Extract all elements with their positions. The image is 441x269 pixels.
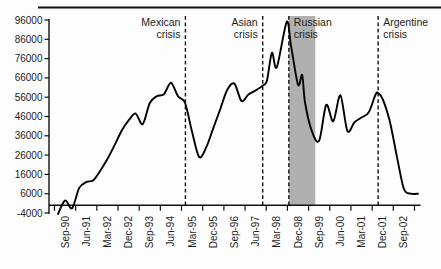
- figure: MexicancrisisAsiancrisisRussiancrisisArg…: [0, 0, 441, 269]
- crisis-label-russian-line2: crisis: [294, 28, 318, 40]
- x-tick-label: Mar-95: [187, 216, 198, 248]
- x-tick-label: Sep-02: [398, 216, 409, 249]
- y-tick-label: 96000: [15, 15, 43, 26]
- y-tick-label: 36000: [15, 130, 43, 141]
- crisis-label-mexican-line1: Mexican: [141, 16, 180, 28]
- x-tick-label: Jun-00: [335, 216, 346, 247]
- y-tick-label: 66000: [15, 72, 43, 83]
- x-tick-label: Sep-99: [314, 216, 325, 249]
- crisis-label-russian-line1: Russian: [294, 16, 332, 28]
- x-tick-label: Dec-98: [293, 216, 304, 249]
- y-tick-label: -4000: [17, 208, 43, 219]
- x-tick-label: Jun-91: [81, 216, 92, 247]
- crisis-label-argentine-line1: Argentine: [383, 16, 428, 28]
- x-tick-label: Mar-98: [271, 216, 282, 248]
- x-tick-label: Sep-96: [229, 216, 240, 249]
- x-tick-label: Mar-01: [356, 216, 367, 248]
- x-tick-label: Sep-93: [144, 216, 155, 249]
- data-line: [58, 21, 418, 214]
- y-tick-label: 46000: [15, 111, 43, 122]
- crisis-label-argentine-line2: crisis: [383, 28, 407, 40]
- y-tick-label: 56000: [15, 92, 43, 103]
- x-tick-label: Mar-92: [102, 216, 113, 248]
- y-tick-label: 6000: [20, 188, 43, 199]
- russian-crisis-band: [289, 16, 315, 205]
- x-tick-label: Jun-97: [250, 216, 261, 247]
- crisis-label-asian-line1: Asian: [231, 16, 257, 28]
- y-tick-label: 76000: [15, 53, 43, 64]
- x-tick-label: Dec-92: [123, 216, 134, 249]
- y-tick-label: 86000: [15, 34, 43, 45]
- y-tick-label: 26000: [15, 150, 43, 161]
- y-tick-label: 16000: [15, 169, 43, 180]
- line-chart: MexicancrisisAsiancrisisRussiancrisisArg…: [0, 0, 441, 269]
- x-tick-label: Jun-94: [165, 216, 176, 247]
- crisis-label-asian-line2: crisis: [234, 28, 258, 40]
- crisis-label-mexican-line2: crisis: [156, 28, 180, 40]
- x-tick-label: Sep-90: [60, 216, 71, 249]
- x-tick-label: Dec-95: [208, 216, 219, 249]
- x-tick-label: Dec-01: [377, 216, 388, 249]
